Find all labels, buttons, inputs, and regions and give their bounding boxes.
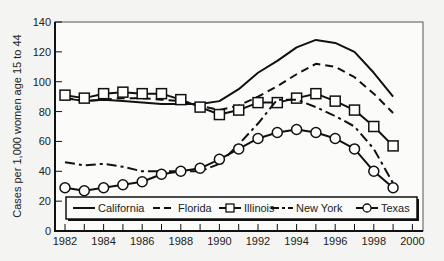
x-tick-label: 1986 bbox=[130, 235, 154, 247]
y-tick-label: 120 bbox=[33, 46, 51, 58]
x-tick-label: 1996 bbox=[323, 235, 347, 247]
legend-item-illinois: Illinois bbox=[219, 202, 275, 214]
x-tick-label: 1998 bbox=[362, 235, 386, 247]
x-tick-label: 1992 bbox=[246, 235, 270, 247]
svg-text:Texas: Texas bbox=[381, 202, 410, 214]
x-tick-label: 1988 bbox=[169, 235, 193, 247]
svg-text:Illinois: Illinois bbox=[244, 202, 275, 214]
x-tick-label: 1994 bbox=[284, 235, 308, 247]
x-tick-label: 1984 bbox=[91, 235, 115, 247]
x-tick-label: 1990 bbox=[207, 235, 231, 247]
y-tick-label: 100 bbox=[33, 76, 51, 88]
svg-text:Florida: Florida bbox=[178, 202, 213, 214]
y-tick-label: 80 bbox=[39, 106, 51, 118]
y-tick-label: 0 bbox=[45, 225, 51, 237]
y-axis-label: Cases per 1,000 women age 15 to 44 bbox=[11, 34, 23, 217]
x-tick-label: 1982 bbox=[53, 235, 77, 247]
y-tick-label: 140 bbox=[33, 16, 51, 28]
y-tick-label: 60 bbox=[39, 135, 51, 147]
svg-text:California: California bbox=[98, 202, 145, 214]
chart-canvas: 020406080100120140 198219841986198819901… bbox=[0, 0, 444, 261]
svg-text:New York: New York bbox=[296, 202, 343, 214]
y-tick-label: 40 bbox=[39, 165, 51, 177]
y-tick-label: 20 bbox=[39, 195, 51, 207]
x-tick-label: 2000 bbox=[400, 235, 424, 247]
line-chart: 020406080100120140 198219841986198819901… bbox=[0, 0, 444, 261]
legend: CaliforniaFloridaIllinoisNew YorkTexas bbox=[66, 197, 419, 221]
